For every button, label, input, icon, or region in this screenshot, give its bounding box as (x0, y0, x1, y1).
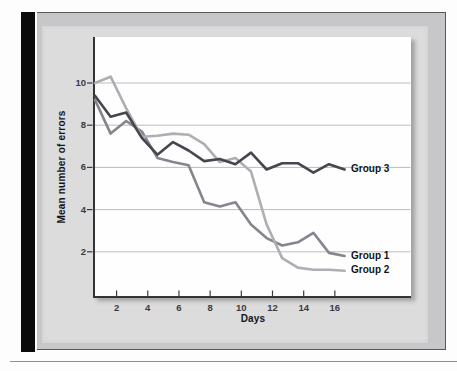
x-tick-label: 12 (263, 302, 283, 313)
series-lines (95, 77, 345, 271)
x-tick-label: 2 (107, 302, 127, 313)
x-tick-label: 6 (169, 302, 189, 313)
tick-marks (87, 83, 335, 297)
x-tick-label: 10 (231, 302, 251, 313)
page-rule-line (10, 361, 457, 362)
x-tick-label: 14 (294, 302, 314, 313)
y-tick-label: 2 (58, 246, 86, 257)
scanned-page: Mean number of errors Days 2468102468101… (0, 0, 457, 371)
y-tick-label: 4 (58, 204, 86, 215)
x-tick-label: 4 (138, 302, 158, 313)
x-tick-label: 8 (200, 302, 220, 313)
group-2-line-label: Group 2 (351, 264, 389, 275)
x-tick-label: 16 (325, 302, 345, 313)
y-tick-label: 6 (58, 161, 86, 172)
y-tick-label: 10 (58, 77, 86, 88)
group-2-line (95, 77, 345, 271)
group-1-line-label: Group 1 (351, 250, 389, 261)
group-3-line-label: Group 3 (351, 163, 389, 174)
y-tick-label: 8 (58, 119, 86, 130)
x-axis-title: Days (213, 313, 293, 324)
